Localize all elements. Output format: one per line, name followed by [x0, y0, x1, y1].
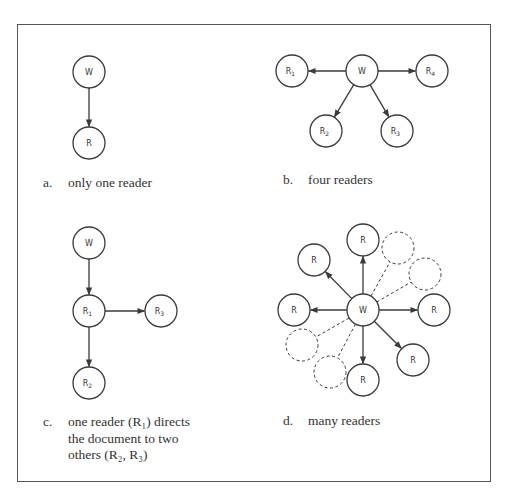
caption-text: others (R₂, R₃): [43, 447, 190, 464]
potential-reader-node: [314, 356, 346, 388]
caption-text: the document to two: [43, 431, 190, 448]
arrow-connector: [326, 272, 352, 299]
reader-node: R3: [381, 115, 413, 147]
panel-c-caption: c.one reader (R₁) directs the document t…: [43, 414, 190, 464]
reader-node: R: [347, 364, 379, 396]
reader-node: R: [278, 294, 310, 326]
panel-b-caption: b.four readers: [283, 172, 373, 189]
node-label: R: [311, 256, 317, 265]
node-label: R: [360, 236, 366, 245]
node-label: R: [360, 376, 366, 385]
node-circle: [382, 232, 414, 264]
node-label: W: [358, 67, 366, 76]
node-label: W: [85, 239, 93, 248]
reader-node: R: [397, 344, 429, 376]
arrow-connector: [374, 321, 401, 348]
caption-text: four readers: [308, 172, 373, 187]
reader-node: R4: [416, 55, 448, 87]
writer-node: W: [73, 227, 105, 259]
panel-letter: c.: [43, 414, 68, 431]
node-circle: [409, 258, 441, 290]
potential-reader-node: [286, 329, 318, 361]
panel-letter: d.: [283, 413, 308, 430]
dashed-connector: [371, 262, 390, 296]
reader-node: R: [418, 294, 450, 326]
caption-text: many readers: [308, 413, 380, 428]
node-label: R: [291, 306, 297, 315]
caption-text: only one reader: [68, 175, 152, 190]
writer-node: W: [346, 55, 378, 87]
panel-a-diagram: WR: [73, 56, 105, 159]
reader-node: R1: [276, 55, 308, 87]
node-circle: [286, 329, 318, 361]
node-circle: [314, 356, 346, 388]
dashed-connector: [377, 282, 411, 302]
caption-text: one reader (R₁) directs: [68, 414, 190, 429]
panel-d-caption: d.many readers: [283, 413, 380, 430]
potential-reader-node: [409, 258, 441, 290]
arrow-connector: [335, 85, 354, 117]
panel-a-caption: a.only one reader: [43, 175, 152, 192]
panel-c-diagram: WR1R3R2: [73, 227, 177, 399]
potential-reader-node: [382, 232, 414, 264]
reader-node: R2: [73, 367, 105, 399]
reader-node: R1: [73, 295, 105, 327]
reader-node: R3: [145, 295, 177, 327]
reader-node: R2: [310, 115, 342, 147]
node-label: R: [431, 306, 437, 315]
panel-letter: b.: [283, 172, 308, 189]
reader-node: R: [73, 127, 105, 159]
dashed-connector: [316, 318, 349, 337]
node-label: W: [359, 306, 367, 315]
node-label: W: [85, 68, 93, 77]
writer-node: W: [73, 56, 105, 88]
panel-b-diagram: WR1R4R2R3: [276, 55, 448, 147]
reader-node: R: [298, 244, 330, 276]
panel-letter: a.: [43, 175, 68, 192]
reader-node: R: [347, 224, 379, 256]
panel-d-diagram: WRRRRRR: [278, 224, 450, 396]
dashed-connector: [338, 324, 356, 358]
writer-node: W: [347, 294, 379, 326]
node-label: R: [410, 356, 416, 365]
arrow-connector: [370, 85, 389, 117]
node-label: R: [86, 139, 92, 148]
